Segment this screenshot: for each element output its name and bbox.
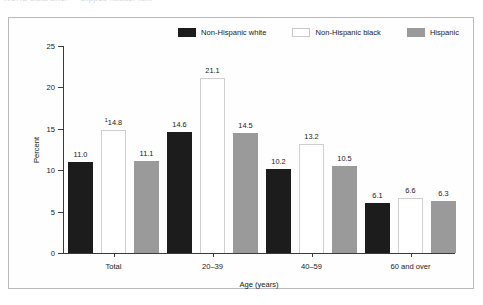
bar-value-label: 13.2 [304,132,318,141]
bar[interactable] [266,169,291,253]
bar[interactable] [332,166,357,253]
x-axis-tick-label: 40–59 [301,262,322,271]
bar-slot: 6.1 [365,46,390,253]
bar[interactable] [233,133,258,253]
bar[interactable] [200,78,225,253]
chart-legend: Non-Hispanic white Non-Hispanic black Hi… [9,28,473,37]
bar-slot: 114.8 [101,46,126,253]
x-axis-tick-label: Total [105,262,121,271]
x-axis-tick-mark [312,253,313,257]
bar-slot: 11.0 [68,46,93,253]
bar[interactable] [431,201,456,253]
bar-slot: 10.2 [266,46,291,253]
y-axis-tick-mark [58,253,63,254]
bar-group: 6.16.66.360 and over [361,46,460,253]
bar-value-label: 6.1 [372,191,382,200]
bar[interactable] [167,132,192,253]
x-axis-title: Age (years) [63,280,455,289]
bar-group: 11.0114.811.1Total [64,46,163,253]
x-axis-tick-label: 60 and over [390,262,430,271]
bar[interactable] [299,144,324,253]
bar-slot: 11.1 [134,46,159,253]
bar-value-label: 11.0 [74,150,88,159]
bar-value-label: 14.5 [238,121,252,130]
bar-value-label: 114.8 [105,117,122,127]
bar-value-label: 6.6 [405,186,415,195]
bar-value-label: 10.2 [271,157,285,166]
y-axis-tick-label: 20 [47,83,55,92]
legend-item-non-hispanic-white[interactable]: Non-Hispanic white [178,28,266,37]
bar-group: 10.213.210.540–59 [262,46,361,253]
y-axis-tick-mark [58,87,63,88]
y-axis-title: Percent [32,137,41,163]
x-axis-tick-mark [213,253,214,257]
bar-value-label: 10.5 [337,154,351,163]
bar-slot: 14.5 [233,46,258,253]
bar[interactable] [134,161,159,253]
white-swatch-icon [292,28,310,37]
gray-swatch-icon [407,28,425,37]
y-axis-tick-label: 5 [51,207,55,216]
bar-group: 14.621.114.520–39 [163,46,262,253]
y-axis-tick-mark [58,46,63,47]
legend-item-label: Non-Hispanic black [315,28,380,37]
y-axis-tick-label: 10 [47,166,55,175]
legend-item-label: Hispanic [430,28,459,37]
bar[interactable] [398,198,423,253]
bar-slot: 13.2 [299,46,324,253]
bar-groups: 11.0114.811.1Total14.621.114.520–3910.21… [64,46,455,253]
plot-area: Percent 0510152025 11.0114.811.1Total14.… [63,46,455,254]
legend-item-label: Non-Hispanic white [201,28,266,37]
legend-item-hispanic[interactable]: Hispanic [407,28,459,37]
x-axis-tick-label: 20–39 [202,262,223,271]
bar[interactable] [101,130,126,253]
legend-item-non-hispanic-black[interactable]: Non-Hispanic black [292,28,380,37]
bar-slot: 10.5 [332,46,357,253]
black-swatch-icon [178,28,196,37]
y-axis-tick-label: 0 [51,249,55,258]
x-axis-tick-mark [411,253,412,257]
bar-slot: 6.3 [431,46,456,253]
y-axis-tick-mark [58,212,63,213]
bar[interactable] [68,162,93,253]
clipped-title-text: NCHS Data Brief — clipped header text [4,0,304,4]
y-axis-tick-mark [58,170,63,171]
bar-value-label: 6.3 [438,189,448,198]
y-axis-tick-label: 15 [47,124,55,133]
bar-slot: 6.6 [398,46,423,253]
bar-slot: 21.1 [200,46,225,253]
bar-value-label: 14.6 [172,120,186,129]
y-axis-tick-mark [58,129,63,130]
bar-slot: 14.6 [167,46,192,253]
bar[interactable] [365,203,390,254]
y-axis-tick-label: 25 [47,42,55,51]
x-axis-tick-mark [114,253,115,257]
bar-value-label: 21.1 [205,66,219,75]
footnote-marker: 1 [105,117,108,123]
bar-value-label: 11.1 [140,149,154,158]
x-axis-line [63,253,455,254]
figure-frame: Non-Hispanic white Non-Hispanic black Hi… [8,17,474,289]
